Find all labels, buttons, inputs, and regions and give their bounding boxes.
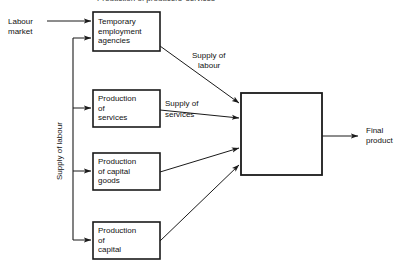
supply-of-labour-line2: labour: [198, 61, 221, 70]
capital-line3: capital: [98, 245, 121, 254]
capital-line1: Production: [98, 226, 136, 235]
capital-goods-line1: Production: [98, 157, 136, 166]
flow-diagram: Labour market Supply of labour Temporary…: [0, 0, 408, 279]
labour-market-line2: market: [8, 27, 33, 36]
agencies-line3: agencies: [98, 36, 130, 45]
edge-capital-to-hub: [160, 165, 239, 241]
edge-capital-goods-to-hub: [160, 148, 239, 172]
edge-label-supply-of-services: Supply of services: [165, 99, 201, 119]
supply-of-services-line1: Supply of: [165, 99, 199, 108]
capital-goods-line3: goods: [98, 176, 120, 185]
services-line2: of: [98, 104, 105, 113]
agencies-line1: Temporary: [98, 17, 136, 26]
final-product-line2: product: [366, 136, 393, 145]
supply-of-services-line2: services: [165, 110, 194, 119]
final-product-line1: Final: [366, 126, 384, 135]
node-production-process-hub[interactable]: [241, 93, 322, 175]
final-product-label: Final product: [366, 126, 393, 145]
services-line1: Production: [98, 94, 136, 103]
services-line3: services: [98, 113, 127, 122]
labour-market-line1: Labour: [8, 17, 33, 26]
supply-of-labour-trunk-label: Supply of labour: [55, 122, 64, 180]
capital-line2: of: [98, 236, 105, 245]
supply-of-labour-line1: Supply of: [192, 51, 226, 60]
diagram-canvas: Production of producers' services Labour…: [0, 0, 408, 279]
agencies-line2: employment: [98, 27, 142, 36]
labour-market-label: Labour market: [8, 17, 35, 36]
capital-goods-line2: of capital: [98, 167, 130, 176]
edge-label-supply-of-labour: Supply of labour: [192, 51, 228, 70]
